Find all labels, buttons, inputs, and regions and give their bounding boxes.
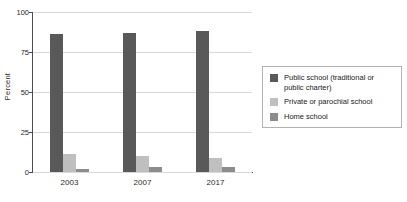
bar xyxy=(63,154,76,172)
bar xyxy=(76,169,89,172)
bar xyxy=(196,31,209,172)
y-tick-mark xyxy=(29,132,33,133)
x-tick-label: 2003 xyxy=(61,178,79,187)
bar-group xyxy=(196,12,235,172)
y-tick-mark xyxy=(29,92,33,93)
bar xyxy=(149,167,162,172)
legend-item-label: Public school (traditional or public cha… xyxy=(284,73,395,92)
y-axis-label: Percent xyxy=(0,0,16,172)
legend-item-label: Private or parochial school xyxy=(284,97,372,107)
legend-swatch-icon xyxy=(270,113,278,121)
bar-chart-figure: Percent 0255075100 200320072017 Public s… xyxy=(0,0,407,202)
y-tick-mark xyxy=(29,172,33,173)
bar xyxy=(136,156,149,172)
x-tick-label: 2017 xyxy=(207,178,225,187)
x-tick-label: 2007 xyxy=(134,178,152,187)
bar xyxy=(50,34,63,172)
y-tick-mark xyxy=(29,12,33,13)
legend-item[interactable]: Public school (traditional or public cha… xyxy=(270,73,395,92)
y-tick-label: 25 xyxy=(21,128,29,137)
bar xyxy=(209,158,222,172)
y-tick-label: 100 xyxy=(16,8,29,17)
y-tick-label: 0 xyxy=(25,168,29,177)
gridline xyxy=(33,172,252,173)
y-axis-label-text: Percent xyxy=(4,72,13,99)
y-tick-label: 75 xyxy=(21,48,29,57)
bar-group xyxy=(123,12,162,172)
chart-legend: Public school (traditional or public cha… xyxy=(262,66,402,128)
y-tick-label: 50 xyxy=(21,88,29,97)
bar-group xyxy=(50,12,89,172)
legend-swatch-icon xyxy=(270,74,278,82)
legend-swatch-icon xyxy=(270,98,278,106)
bar xyxy=(123,33,136,172)
legend-item[interactable]: Private or parochial school xyxy=(270,97,395,107)
plot-area: 0255075100 200320072017 xyxy=(33,12,252,172)
y-tick-mark xyxy=(29,52,33,53)
legend-item-label: Home school xyxy=(284,112,328,122)
legend-item[interactable]: Home school xyxy=(270,112,395,122)
bar xyxy=(222,167,235,172)
